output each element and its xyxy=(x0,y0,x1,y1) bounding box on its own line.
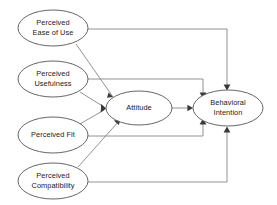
node-attitude[interactable]: Attitude xyxy=(106,91,172,125)
node-label-line-1: Attitude xyxy=(126,103,151,112)
node-label-line-2: Ease of Use xyxy=(33,28,74,37)
node-label-line-2: Compatibility xyxy=(32,181,75,190)
node-perceived-fit[interactable]: Perceived Fit xyxy=(18,117,88,153)
node-label-line-1: Perceived xyxy=(36,18,69,27)
node-label-line-1: Perceived Fit xyxy=(31,130,75,139)
node-label-line-2: Intention xyxy=(214,108,243,117)
node-label-line-2: Usefulness xyxy=(34,79,71,88)
node-label-line-1: Perceived xyxy=(36,69,69,78)
research-model-diagram: Perceived Ease of Use Perceived Usefulne… xyxy=(0,0,277,205)
node-perceived-usefulness[interactable]: Perceived Usefulness xyxy=(18,61,88,97)
node-perceived-ease-of-use[interactable]: Perceived Ease of Use xyxy=(18,10,88,46)
node-label-line-1: Perceived xyxy=(36,171,69,180)
model-canvas: Perceived Ease of Use Perceived Usefulne… xyxy=(0,0,277,205)
node-perceived-compatibility[interactable]: Perceived Compatibility xyxy=(18,163,88,199)
node-label-line-1: Behavioral xyxy=(210,98,246,107)
node-behavioral-intention[interactable]: Behavioral Intention xyxy=(193,90,263,126)
